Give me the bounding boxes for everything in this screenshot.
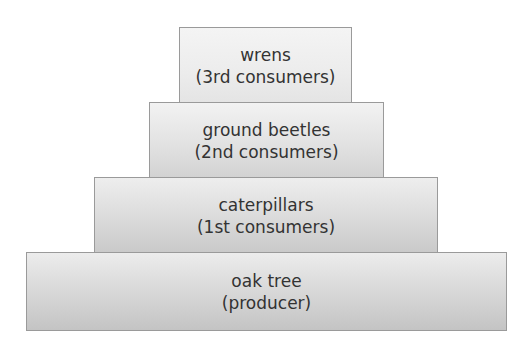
level-name: ground beetles bbox=[203, 119, 331, 141]
food-pyramid: wrens (3rd consumers) ground beetles (2n… bbox=[0, 0, 529, 344]
level-producer: oak tree (producer) bbox=[26, 252, 507, 331]
level-role: (1st consumers) bbox=[197, 216, 335, 238]
level-third-consumers: wrens (3rd consumers) bbox=[179, 27, 352, 103]
level-role: (3rd consumers) bbox=[196, 66, 336, 88]
level-name: wrens bbox=[240, 44, 291, 66]
level-name: caterpillars bbox=[218, 194, 313, 216]
level-role: (2nd consumers) bbox=[194, 141, 338, 163]
level-second-consumers: ground beetles (2nd consumers) bbox=[149, 102, 384, 178]
level-role: (producer) bbox=[222, 292, 311, 314]
level-first-consumers: caterpillars (1st consumers) bbox=[94, 177, 438, 253]
level-name: oak tree bbox=[231, 270, 301, 292]
